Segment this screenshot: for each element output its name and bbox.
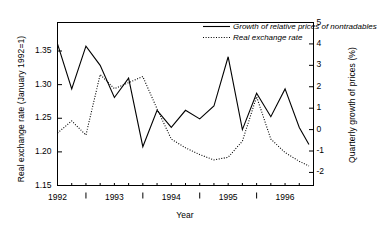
x-tick-label: 1994 [151,192,191,202]
y-left-tick-label: 1.30 [22,79,52,89]
y-right-tick-label: -2 [317,166,337,176]
x-axis-title: Year [57,210,313,220]
y-right-tick-label: 3 [317,59,337,69]
y-right-tick-label: 0 [317,124,337,134]
y-right-tick-label: 1 [317,102,337,112]
y-axis-left-title: Real exchange rate (January 1992=1) [16,34,26,184]
y-left-tick-label: 1.25 [22,112,52,122]
y-right-tick-label: 2 [317,81,337,91]
x-tick-label: 1992 [38,192,78,202]
y-left-tick-label: 1.20 [22,146,52,156]
y-left-tick-label: 1.15 [22,180,52,190]
x-tick-label: 1995 [208,192,248,202]
x-tick-label: 1996 [265,192,305,202]
y-right-tick-label: 4 [317,38,337,48]
legend-label-growth-relative-prices: Growth of relative prices of nontradable… [233,22,377,31]
y-left-tick-label: 1.35 [22,45,52,55]
legend-label-real-exchange-rate: Real exchange rate [233,33,302,42]
x-tick-label: 1993 [94,192,134,202]
y-axis-right-title: Quarterly growth of prices (%) [347,30,357,180]
y-right-tick-label: -1 [317,145,337,155]
